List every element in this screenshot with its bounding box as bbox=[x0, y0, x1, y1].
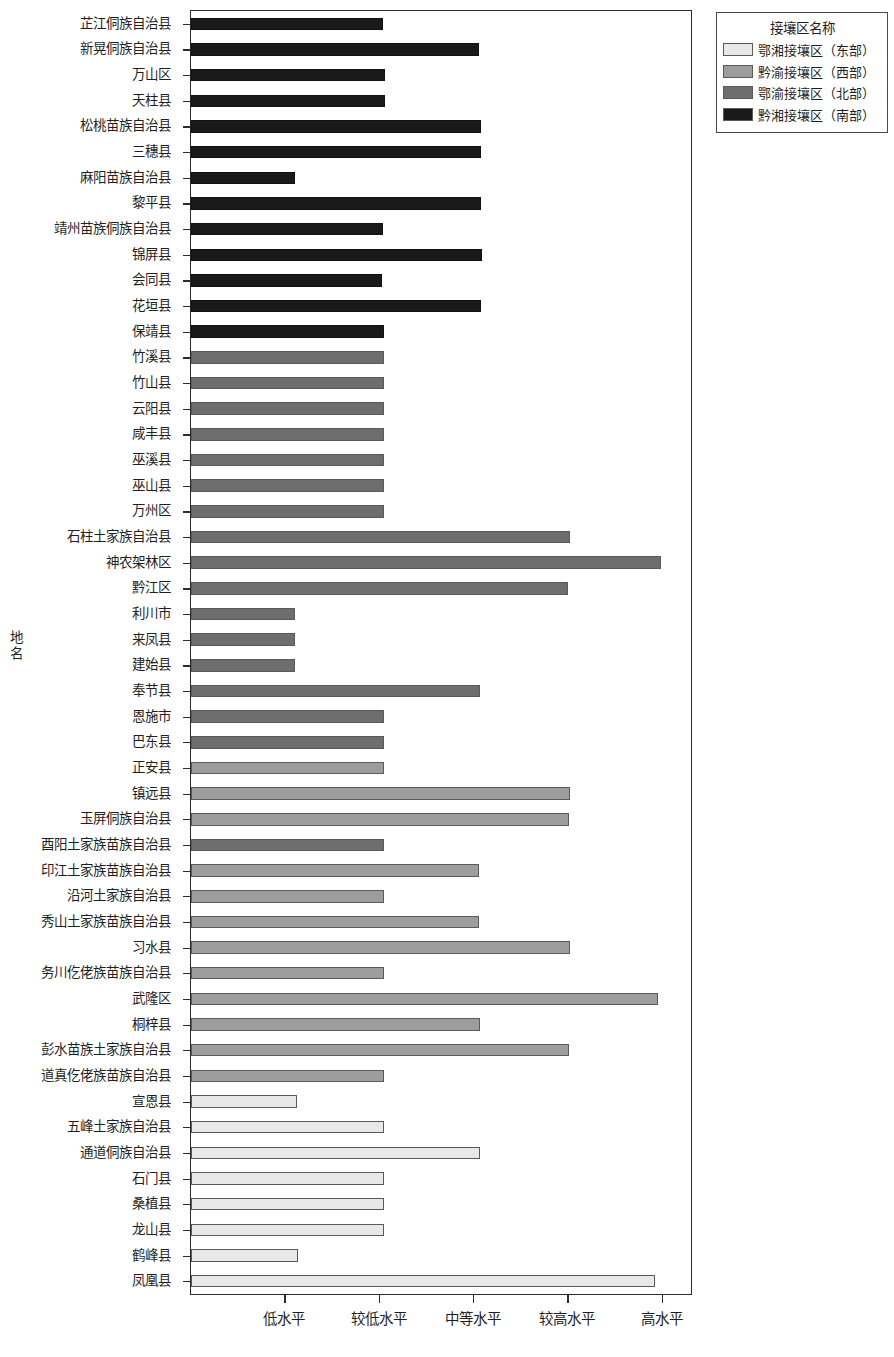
y-tick-mark bbox=[183, 409, 190, 410]
bar-row bbox=[191, 1089, 297, 1115]
y-tick-mark bbox=[183, 203, 190, 204]
bar-row bbox=[191, 1191, 384, 1217]
bar-row bbox=[191, 473, 384, 499]
y-tick-mark bbox=[183, 101, 190, 102]
bar-row bbox=[191, 216, 383, 242]
bar bbox=[191, 1275, 655, 1288]
y-tick-label: 五峰土家族自治县 bbox=[67, 1120, 171, 1134]
x-tick-label: 低水平 bbox=[263, 1307, 305, 1328]
y-tick-label: 黎平县 bbox=[132, 196, 171, 210]
bar-row bbox=[191, 1243, 298, 1269]
legend-swatch-icon bbox=[723, 108, 753, 121]
bar-row bbox=[191, 806, 569, 832]
y-tick-mark bbox=[183, 1050, 190, 1051]
bar-row bbox=[191, 524, 570, 550]
bar-row bbox=[191, 165, 295, 191]
y-tick-label: 黔江区 bbox=[132, 581, 171, 595]
y-tick-label: 新晃侗族自治县 bbox=[80, 42, 171, 56]
bar-row bbox=[191, 396, 384, 422]
y-tick-label: 宣恩县 bbox=[132, 1095, 171, 1109]
bar bbox=[191, 1172, 384, 1185]
y-tick-mark bbox=[183, 1256, 190, 1257]
y-tick-label: 彭水苗族土家族自治县 bbox=[41, 1043, 171, 1057]
y-tick-mark bbox=[183, 49, 190, 50]
bar bbox=[191, 120, 481, 133]
bar-row bbox=[191, 242, 482, 268]
y-tick-label: 云阳县 bbox=[132, 402, 171, 416]
x-tick-mark bbox=[379, 1295, 380, 1303]
bar bbox=[191, 1249, 298, 1262]
bar bbox=[191, 223, 383, 236]
x-tick-mark bbox=[284, 1295, 285, 1303]
bar bbox=[191, 172, 295, 185]
y-tick-label: 万山区 bbox=[132, 68, 171, 82]
bar-row bbox=[191, 37, 479, 63]
bar-row bbox=[191, 422, 384, 448]
legend: 接壤区名称 鄂湘接壤区（东部）黔渝接壤区（西部）鄂渝接壤区（北部）黔湘接壤区（南… bbox=[716, 12, 888, 133]
y-tick-label: 桐梓县 bbox=[132, 1018, 171, 1032]
legend-swatch-icon bbox=[723, 65, 753, 78]
bar-row bbox=[191, 704, 384, 730]
bar bbox=[191, 505, 384, 518]
bar-row bbox=[191, 1114, 384, 1140]
y-tick-mark bbox=[183, 383, 190, 384]
bar-row bbox=[191, 1140, 480, 1166]
y-tick-mark bbox=[183, 255, 190, 256]
y-tick-mark bbox=[183, 588, 190, 589]
bar-row bbox=[191, 986, 658, 1012]
legend-item[interactable]: 鄂渝接壤区（北部） bbox=[723, 83, 881, 102]
bar bbox=[191, 556, 661, 569]
y-tick-label: 鹤峰县 bbox=[132, 1249, 171, 1263]
y-tick-mark bbox=[183, 845, 190, 846]
legend-label: 鄂渝接壤区（北部） bbox=[758, 83, 875, 102]
bar-row bbox=[191, 883, 384, 909]
y-tick-mark bbox=[183, 460, 190, 461]
y-tick-label: 神农架林区 bbox=[106, 556, 171, 570]
bar-row bbox=[191, 858, 479, 884]
y-tick-mark bbox=[183, 973, 190, 974]
bar bbox=[191, 633, 295, 646]
bar bbox=[191, 941, 570, 954]
y-tick-label: 花垣县 bbox=[132, 299, 171, 313]
y-tick-mark bbox=[183, 1102, 190, 1103]
y-tick-mark bbox=[183, 691, 190, 692]
bar-row bbox=[191, 139, 481, 165]
bar bbox=[191, 428, 384, 441]
y-tick-label: 巫溪县 bbox=[132, 453, 171, 467]
bar-row bbox=[191, 11, 383, 37]
bar-row bbox=[191, 1012, 480, 1038]
y-tick-mark bbox=[183, 357, 190, 358]
legend-item[interactable]: 鄂湘接壤区（东部） bbox=[723, 40, 881, 59]
y-tick-label: 三穗县 bbox=[132, 145, 171, 159]
y-tick-label: 奉节县 bbox=[132, 684, 171, 698]
bar-row bbox=[191, 370, 384, 396]
bar bbox=[191, 146, 481, 159]
bar bbox=[191, 531, 570, 544]
y-tick-mark bbox=[183, 922, 190, 923]
bar bbox=[191, 813, 569, 826]
bar-row bbox=[191, 576, 568, 602]
y-tick-mark bbox=[183, 614, 190, 615]
x-tick-label: 中等水平 bbox=[445, 1307, 501, 1328]
y-tick-label: 利川市 bbox=[132, 607, 171, 621]
bar bbox=[191, 582, 568, 595]
bar bbox=[191, 1198, 384, 1211]
bar-row bbox=[191, 1217, 384, 1243]
y-tick-label: 松桃苗族自治县 bbox=[80, 119, 171, 133]
bar bbox=[191, 1044, 569, 1057]
legend-item[interactable]: 黔渝接壤区（西部） bbox=[723, 62, 881, 81]
bar bbox=[191, 95, 385, 108]
bar-series-group bbox=[191, 11, 691, 1294]
legend-label: 黔渝接壤区（西部） bbox=[758, 62, 875, 81]
bar bbox=[191, 1147, 480, 1160]
legend-item[interactable]: 黔湘接壤区（南部） bbox=[723, 105, 881, 124]
bar bbox=[191, 787, 570, 800]
x-tick-mark bbox=[662, 1295, 663, 1303]
y-tick-mark bbox=[183, 486, 190, 487]
y-tick-mark bbox=[183, 229, 190, 230]
bar bbox=[191, 377, 384, 390]
bar-row bbox=[191, 62, 385, 88]
y-tick-label: 靖州苗族侗族自治县 bbox=[54, 222, 171, 236]
y-tick-label: 凤凰县 bbox=[132, 1274, 171, 1288]
bar bbox=[191, 454, 384, 467]
